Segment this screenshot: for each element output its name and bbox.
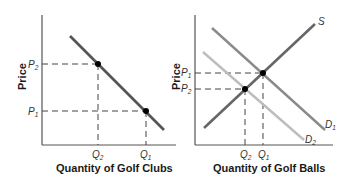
x-tick-q2: Q2 — [240, 149, 252, 161]
point-p1-q1 — [143, 108, 149, 114]
demand-curve-d1 — [212, 28, 325, 130]
panel-golf-balls: S D1 D2 P1 P2 Q2 Q1 Price Quantity of Go… — [170, 15, 336, 174]
point-p1-q1 — [260, 70, 266, 76]
x-tick-q1: Q1 — [258, 149, 270, 161]
x-tick-q1: Q1 — [140, 149, 152, 161]
supply-label: S — [318, 16, 325, 27]
y-tick-p1: P1 — [28, 106, 39, 118]
point-p2-q2 — [242, 86, 248, 92]
point-p2-q2 — [95, 61, 101, 67]
y-tick-p1: P1 — [181, 67, 192, 79]
diagram-canvas: P2 P1 Q2 Q1 Price Quantity of Golf Clubs — [0, 0, 352, 185]
x-tick-q2: Q2 — [92, 149, 104, 161]
y-tick-p2: P2 — [181, 83, 192, 95]
x-axis-title: Quantity of Golf Clubs — [56, 162, 173, 174]
demand-curve — [70, 36, 164, 130]
y-axis-title: Price — [16, 63, 28, 90]
supply-curve — [204, 24, 315, 128]
y-tick-p2: P2 — [28, 59, 39, 71]
panel-golf-clubs: P2 P1 Q2 Q1 Price Quantity of Golf Clubs — [16, 15, 176, 174]
x-axis-title: Quantity of Golf Balls — [213, 162, 325, 174]
demand-d1-label: D1 — [325, 119, 336, 131]
y-axis-title: Price — [170, 63, 182, 90]
demand-d2-label: D2 — [305, 134, 316, 146]
